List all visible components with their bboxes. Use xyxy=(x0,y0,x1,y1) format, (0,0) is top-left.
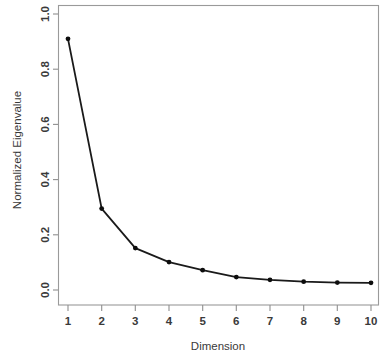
scree-plot-figure: 0.0 0.2 0.4 0.6 0.8 1.0 1 2 3 4 5 xyxy=(0,0,387,358)
data-point xyxy=(301,279,306,284)
data-point xyxy=(99,206,104,211)
data-point xyxy=(66,36,71,41)
data-point xyxy=(335,280,340,285)
x-axis-title: Dimension xyxy=(191,340,245,352)
y-tick-label-0: 0.0 xyxy=(39,282,51,298)
x-tick-label-8: 8 xyxy=(300,315,307,327)
x-tick-label-2: 2 xyxy=(98,315,104,327)
x-tick-label-3: 3 xyxy=(132,315,138,327)
x-tick-label-5: 5 xyxy=(199,315,206,327)
x-tick-label-1: 1 xyxy=(65,315,72,327)
x-tick-label-9: 9 xyxy=(334,315,340,327)
y-tick-label-3: 0.6 xyxy=(39,116,51,132)
y-tick-label-1: 0.2 xyxy=(39,227,51,243)
y-tick-label-2: 0.4 xyxy=(39,171,51,188)
x-tick-label-7: 7 xyxy=(267,315,273,327)
x-tick-label-4: 4 xyxy=(166,315,173,327)
x-tick-label-6: 6 xyxy=(233,315,239,327)
y-axis-title: Normalized Eigenvalue xyxy=(11,91,23,209)
data-point xyxy=(133,246,138,251)
data-point xyxy=(268,277,273,282)
data-point xyxy=(369,280,374,285)
data-point xyxy=(200,268,205,273)
chart-canvas: 0.0 0.2 0.4 0.6 0.8 1.0 1 2 3 4 5 xyxy=(0,0,387,358)
x-tick-label-10: 10 xyxy=(365,315,378,327)
data-point xyxy=(234,275,239,280)
y-tick-label-4: 0.8 xyxy=(39,61,51,78)
y-tick-label-5: 1.0 xyxy=(39,6,51,22)
data-point xyxy=(167,260,172,265)
